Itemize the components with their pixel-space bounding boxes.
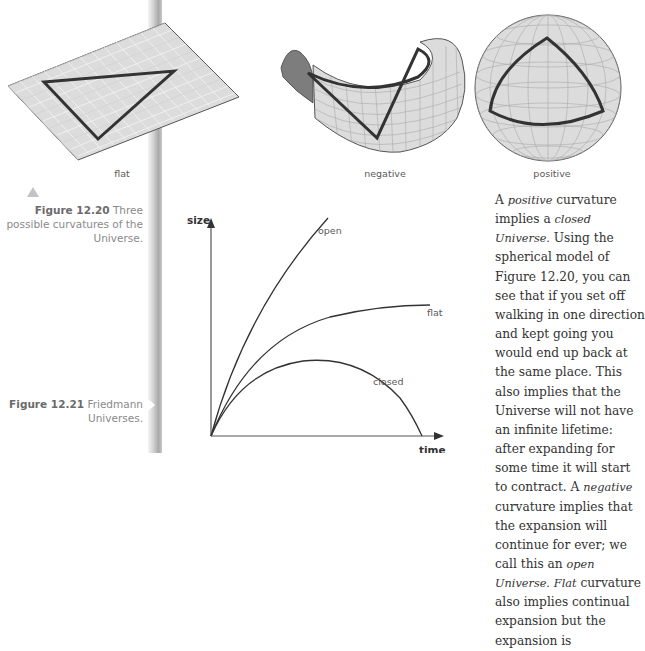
label-open: open (318, 225, 342, 236)
emphasis-text: Flat (554, 577, 577, 590)
curve-flat (211, 305, 430, 436)
x-axis-label: time (419, 444, 446, 453)
label-flat-curve: flat (427, 307, 443, 318)
text-run: Using the spherical model of Figure 12.2… (495, 231, 645, 494)
curve-open (211, 218, 328, 436)
body-text: A positive curvature implies a closed Un… (495, 191, 645, 651)
y-axis-label: size (187, 214, 210, 226)
emphasis-text: negative (583, 481, 632, 494)
body-paragraph: A positive curvature implies a closed Un… (495, 191, 645, 651)
text-run: A (495, 193, 508, 207)
label-closed: closed (373, 376, 404, 387)
x-axis-arrow-icon (434, 432, 444, 440)
emphasis-text: positive (508, 194, 553, 207)
curve-closed (211, 360, 422, 436)
text-run: curvature implies that the expansion wil… (495, 500, 633, 571)
